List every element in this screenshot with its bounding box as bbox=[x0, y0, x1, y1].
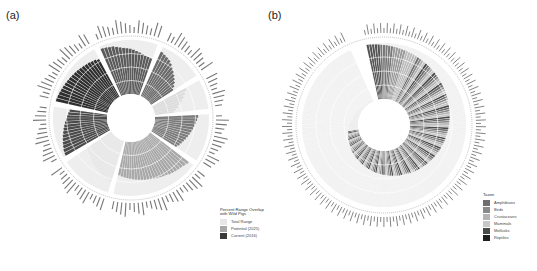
legend-a-item: Total Range bbox=[220, 218, 264, 225]
species-label bbox=[195, 174, 200, 179]
species-label bbox=[35, 140, 49, 144]
species-label bbox=[287, 93, 296, 96]
species-label bbox=[211, 88, 217, 90]
legend-b-item: Reptiles bbox=[483, 234, 516, 241]
species-label bbox=[471, 93, 480, 96]
species-label bbox=[291, 97, 296, 98]
species-label bbox=[446, 54, 449, 58]
species-label bbox=[69, 46, 76, 54]
species-label bbox=[146, 202, 147, 208]
species-label bbox=[116, 202, 118, 212]
species-label bbox=[474, 104, 479, 105]
species-label bbox=[290, 86, 299, 90]
legend-swatch bbox=[483, 200, 490, 206]
species-label bbox=[61, 174, 67, 179]
species-label bbox=[455, 63, 459, 66]
species-label bbox=[211, 148, 218, 151]
species-label bbox=[396, 29, 397, 34]
species-label bbox=[368, 216, 369, 221]
legend-b-item: Mollusks bbox=[483, 227, 516, 234]
species-label bbox=[284, 106, 294, 108]
legend-swatch bbox=[220, 233, 227, 239]
species-label bbox=[112, 201, 114, 209]
species-label bbox=[319, 53, 322, 57]
species-label bbox=[214, 95, 225, 98]
species-label bbox=[316, 191, 320, 195]
species-label bbox=[476, 120, 486, 121]
species-label bbox=[40, 96, 49, 98]
species-label bbox=[459, 68, 463, 71]
species-label bbox=[180, 188, 183, 193]
species-label bbox=[474, 142, 479, 143]
species-label bbox=[402, 30, 403, 35]
species-label bbox=[183, 185, 188, 191]
species-label bbox=[167, 33, 171, 41]
species-label bbox=[212, 144, 222, 147]
species-label bbox=[282, 133, 292, 134]
species-label bbox=[309, 63, 313, 66]
species-label bbox=[173, 192, 178, 202]
species-label bbox=[431, 42, 434, 46]
species-label bbox=[138, 20, 139, 33]
species-label bbox=[474, 145, 484, 147]
species-label bbox=[138, 203, 139, 214]
legend-label: Amphibians bbox=[494, 201, 515, 205]
species-label bbox=[337, 205, 339, 209]
species-label bbox=[292, 154, 297, 156]
species-label bbox=[43, 152, 53, 156]
species-label bbox=[399, 24, 401, 34]
species-label bbox=[314, 58, 318, 61]
species-label bbox=[205, 159, 215, 164]
species-label bbox=[464, 171, 468, 174]
legend-a-title-line2: with Wild Pigs bbox=[220, 212, 264, 216]
species-label bbox=[374, 217, 375, 222]
species-label bbox=[203, 163, 211, 168]
legend-label: Total Range bbox=[231, 220, 252, 224]
species-label bbox=[451, 58, 455, 61]
species-label bbox=[79, 44, 82, 49]
legend-swatch bbox=[483, 214, 490, 220]
species-label bbox=[457, 181, 461, 184]
species-label bbox=[293, 91, 298, 93]
species-label bbox=[412, 28, 415, 38]
species-label bbox=[289, 104, 294, 105]
legend-swatch bbox=[483, 228, 490, 234]
species-label bbox=[414, 33, 416, 38]
species-label bbox=[340, 39, 342, 43]
legend-a-item: Current (2016) bbox=[220, 232, 264, 239]
species-label bbox=[125, 23, 126, 33]
species-label bbox=[169, 194, 173, 202]
species-label bbox=[305, 68, 309, 71]
species-label bbox=[290, 148, 295, 149]
legend-swatch bbox=[483, 221, 490, 227]
species-label bbox=[302, 74, 306, 77]
species-label bbox=[434, 202, 437, 206]
species-label bbox=[374, 24, 375, 34]
legend-b-item: Amphibians bbox=[483, 199, 516, 206]
species-label bbox=[303, 176, 307, 179]
species-label bbox=[367, 24, 369, 34]
species-label bbox=[185, 46, 190, 52]
species-label bbox=[36, 136, 48, 139]
legend-label: Mammals bbox=[494, 222, 511, 226]
species-label bbox=[393, 217, 394, 222]
species-label bbox=[349, 211, 351, 216]
species-label bbox=[307, 181, 311, 184]
species-label bbox=[475, 110, 480, 111]
species-label bbox=[453, 186, 457, 189]
species-label bbox=[289, 142, 294, 143]
legend-label: Current (2016) bbox=[231, 234, 257, 238]
species-label bbox=[462, 74, 466, 77]
species-label bbox=[215, 105, 222, 106]
bar bbox=[155, 115, 198, 118]
species-label bbox=[370, 216, 371, 226]
species-label bbox=[343, 208, 345, 213]
legend-b-item: Crustaceans bbox=[483, 213, 516, 220]
legend-swatch bbox=[220, 226, 227, 232]
species-label bbox=[98, 26, 102, 38]
species-label bbox=[63, 177, 70, 184]
species-label bbox=[108, 27, 110, 36]
species-label bbox=[331, 202, 334, 206]
legend-label: Crustaceans bbox=[494, 215, 516, 219]
species-label bbox=[426, 39, 428, 43]
